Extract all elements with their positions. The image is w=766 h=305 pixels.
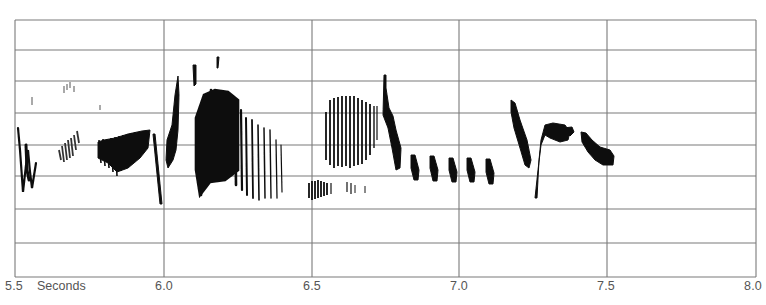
x-tick-label: 7.5 [597,279,615,293]
spectrogram-plot [0,0,766,305]
x-tick-label: 7.0 [450,279,468,293]
x-tick-label: 5.5 [5,279,23,293]
x-tick-label: 6.0 [155,279,173,293]
x-tick-label: 8.0 [744,279,762,293]
x-tick-label: 6.5 [303,279,321,293]
x-axis-label: Seconds [37,279,86,293]
note-high-1 [193,65,196,86]
